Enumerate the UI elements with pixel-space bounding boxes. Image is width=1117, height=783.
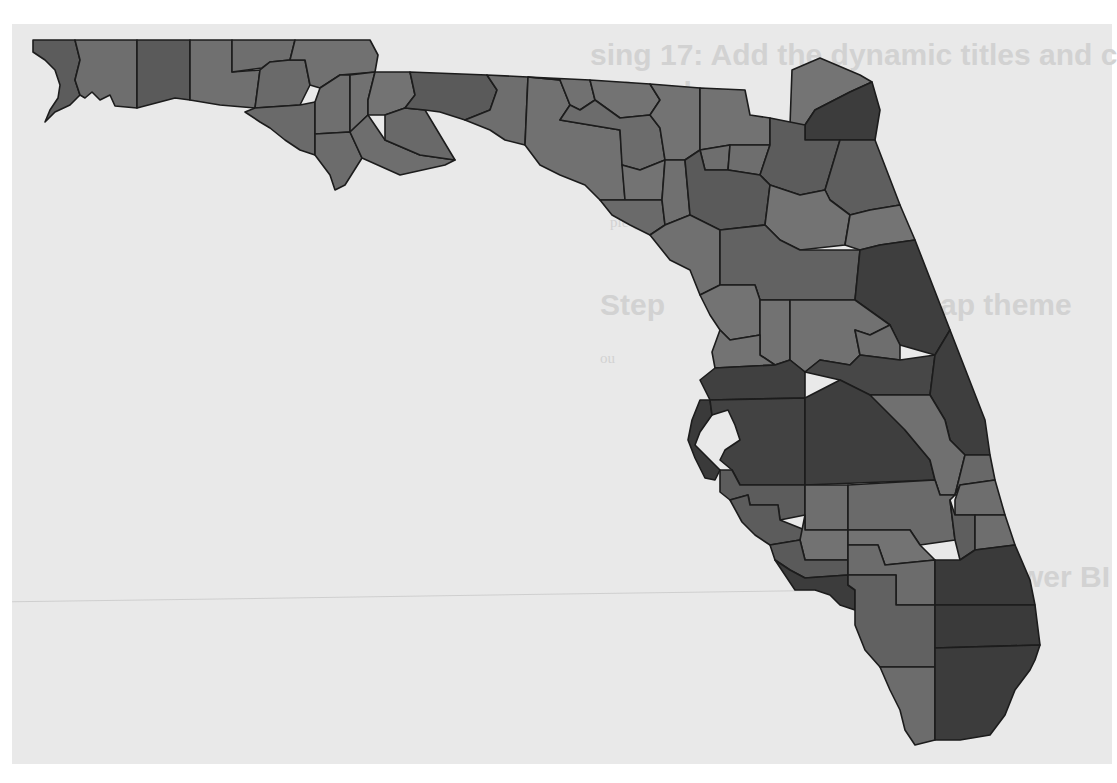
- county-citrus[interactable]: [700, 285, 760, 340]
- county-monroe[interactable]: [880, 667, 935, 745]
- county-martin[interactable]: [975, 515, 1015, 550]
- county-broward[interactable]: [935, 605, 1040, 648]
- county-santa-rosa[interactable]: [75, 40, 137, 108]
- county-miami-dade[interactable]: [935, 645, 1040, 740]
- county-palm-beach[interactable]: [935, 545, 1035, 605]
- county-escambia[interactable]: [33, 40, 80, 122]
- county-baker[interactable]: [700, 88, 770, 150]
- county-bay[interactable]: [245, 102, 315, 155]
- county-hardee[interactable]: [805, 485, 848, 530]
- county-okaloosa[interactable]: [137, 40, 190, 108]
- county-washington[interactable]: [255, 60, 310, 108]
- county-dixie[interactable]: [600, 200, 665, 235]
- county-sumter[interactable]: [760, 300, 790, 365]
- county-st-lucie[interactable]: [955, 480, 1005, 515]
